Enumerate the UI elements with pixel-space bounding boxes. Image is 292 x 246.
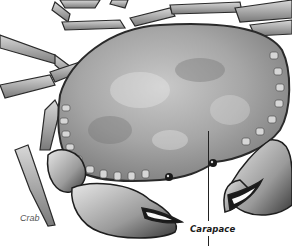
eye-right	[209, 159, 217, 167]
carapace-label: Carapace	[190, 224, 235, 234]
carapace-leader-line	[208, 131, 209, 221]
carapace-leader-line-lower	[208, 236, 209, 246]
species-label: Crab	[20, 213, 40, 223]
eye-left	[165, 173, 173, 181]
crab-illustration	[0, 0, 292, 246]
figure-canvas: Crab Carapace	[0, 0, 292, 246]
